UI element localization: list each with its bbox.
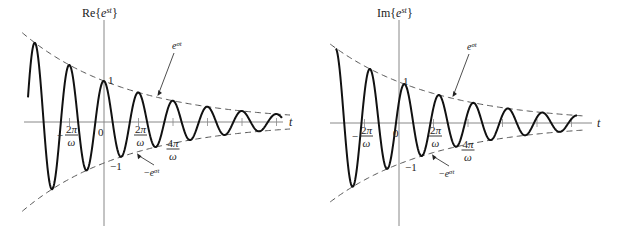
label-zero-part: 0 [98, 126, 104, 138]
envelope-lower-label-part: σt [449, 168, 455, 175]
tick-label-1: 2πω [429, 124, 442, 149]
arrowhead-icon [137, 153, 142, 159]
envelope-upper [330, 44, 585, 116]
fraction-denominator: ω [68, 136, 76, 148]
label-neg-one-part: −1 [405, 161, 417, 173]
axis-title: Re{est} [82, 6, 118, 21]
envelope-upper-label: eσt [467, 41, 478, 53]
axis-title: Im{est} [377, 6, 413, 21]
fraction-denominator: ω [464, 151, 472, 163]
fraction-denominator: ω [169, 150, 177, 162]
label-one-part: 1 [403, 75, 409, 87]
envelope-upper-pointer [158, 53, 174, 94]
envelope-upper-pointer [453, 54, 469, 95]
envelope-lower-label: −eσt [439, 168, 455, 180]
envelope-lower-label: −eσt [144, 167, 160, 179]
tick-label-2: 4πω [167, 137, 180, 162]
label-one: 1 [403, 75, 409, 87]
label-neg-one: −1 [110, 160, 122, 172]
axis-title-part: Re{ [82, 6, 101, 20]
envelope-upper-label-part: σt [471, 41, 477, 48]
fraction-numerator: 2π [66, 123, 78, 135]
x-axis-label-part: t [597, 116, 601, 130]
fraction-denominator: ω [363, 137, 371, 149]
x-axis-label-part: t [289, 115, 293, 129]
x-axis-label: t [597, 116, 601, 130]
label-zero: 0 [98, 126, 104, 138]
label-zero: 0 [393, 127, 399, 139]
envelope-upper-label-part: σt [176, 40, 182, 47]
tick-label--1: 2πω− [352, 124, 373, 149]
fraction-numerator: 2π [361, 124, 373, 136]
x-axis-label: t [289, 115, 293, 129]
label-one-part: 1 [108, 74, 114, 86]
fraction-denominator: ω [137, 136, 145, 148]
fraction-numerator: 4π [167, 137, 179, 149]
tick-label-1: 2πω [134, 123, 147, 148]
envelope-upper-label: eσt [172, 40, 183, 52]
fraction-denominator: ω [432, 137, 440, 149]
fraction-sign: − [352, 130, 358, 142]
signal-curve-imag [336, 49, 577, 187]
panel-imag: Im{est}t10−12πω−2πω4πωeσt−eσt [330, 6, 601, 227]
label-zero-part: 0 [393, 127, 399, 139]
label-neg-one: −1 [405, 161, 417, 173]
label-one: 1 [108, 74, 114, 86]
damped-sinusoid-figure: Re{est}t10−12πω−2πω4πωeσt−eσtIm{est}t10−… [0, 0, 620, 236]
panel-real: Re{est}t10−12πω−2πω4πωeσt−eσt [22, 6, 293, 227]
axis-title-part: } [112, 6, 118, 20]
fraction-sign: − [57, 129, 63, 141]
axis-title-part: Im{ [377, 6, 396, 20]
tick-label-2: 4πω [462, 138, 475, 163]
axis-title-part: } [407, 6, 413, 20]
arrowhead-icon [432, 154, 437, 160]
label-neg-one-part: −1 [110, 160, 122, 172]
fraction-numerator: 4π [462, 138, 474, 150]
fraction-numerator: 2π [135, 123, 147, 135]
envelope-lower-label-part: σt [154, 167, 160, 174]
fraction-numerator: 2π [430, 124, 442, 136]
